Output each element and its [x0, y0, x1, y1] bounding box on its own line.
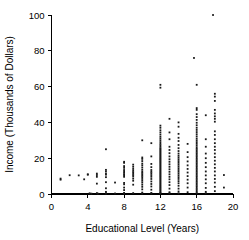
scatter-plot-figure: 048121620020406080100Educational Level (…: [0, 0, 249, 240]
scatter-point: [169, 171, 171, 173]
y-axis-title: Income (Thousands of Dollars): [4, 36, 15, 173]
scatter-point: [187, 172, 189, 174]
scatter-point: [160, 125, 162, 127]
scatter-point: [169, 176, 171, 178]
scatter-point: [105, 169, 107, 171]
scatter-point: [178, 185, 180, 187]
scatter-point: [160, 127, 162, 129]
scatter-point: [196, 119, 198, 121]
scatter-point: [132, 184, 134, 186]
scatter-point: [196, 192, 198, 194]
x-axis-title: Educational Level (Years): [85, 223, 199, 234]
scatter-point: [187, 143, 189, 145]
scatter-point: [196, 124, 198, 126]
scatter-point: [187, 156, 189, 158]
scatter-point: [187, 164, 189, 166]
y-tick-label: 0: [39, 189, 44, 200]
scatter-point: [123, 165, 125, 167]
y-tick-label: 60: [34, 81, 45, 92]
y-tick-label: 40: [34, 117, 45, 128]
x-tick-label: 12: [155, 201, 166, 212]
scatter-point: [187, 175, 189, 177]
scatter-point: [214, 174, 216, 176]
scatter-point: [196, 131, 198, 133]
scatter-point: [214, 149, 216, 151]
scatter-point: [178, 166, 180, 168]
scatter-point: [114, 193, 116, 195]
scatter-point: [187, 161, 189, 163]
x-tick-label: 16: [191, 201, 202, 212]
scatter-point: [196, 143, 198, 145]
scatter-point: [178, 176, 180, 178]
scatter-point: [178, 160, 180, 162]
scatter-point: [141, 178, 143, 180]
scatter-point: [123, 162, 125, 164]
scatter-point: [141, 163, 143, 165]
scatter-point: [89, 192, 91, 194]
scatter-point: [178, 150, 180, 152]
scatter-point: [196, 129, 198, 131]
scatter-point: [169, 178, 171, 180]
scatter-point: [150, 172, 152, 174]
scatter-point: [196, 113, 198, 115]
scatter-point: [160, 138, 162, 140]
scatter-point: [160, 139, 162, 141]
scatter-point: [214, 171, 216, 173]
x-tick-label: 8: [121, 201, 126, 212]
scatter-point: [123, 193, 125, 195]
scatter-point: [214, 109, 216, 111]
scatter-point: [205, 187, 207, 189]
scatter-point: [196, 133, 198, 135]
scatter-point: [141, 182, 143, 184]
scatter-point: [178, 174, 180, 176]
scatter-point: [160, 134, 162, 136]
scatter-point: [169, 184, 171, 186]
scatter-point: [214, 96, 216, 98]
y-tick-label: 80: [34, 45, 45, 56]
scatter-point: [150, 178, 152, 180]
scatter-point: [205, 138, 207, 140]
scatter-point: [169, 152, 171, 154]
scatter-point: [214, 146, 216, 148]
scatter-point: [150, 181, 152, 183]
y-tick-label: 20: [34, 153, 45, 164]
scatter-point: [160, 87, 162, 89]
scatter-point: [205, 146, 207, 148]
scatter-point: [196, 107, 198, 109]
scatter-point: [132, 192, 134, 194]
scatter-point: [141, 160, 143, 162]
scatter-point: [214, 160, 216, 162]
scatter-point: [214, 93, 216, 95]
scatter-point: [178, 153, 180, 155]
scatter-point: [169, 138, 171, 140]
scatter-point: [150, 174, 152, 176]
scatter-point: [105, 171, 107, 173]
scatter-point: [105, 148, 107, 150]
scatter-points-group: [60, 14, 225, 194]
scatter-point: [141, 180, 143, 182]
scatter-point: [150, 163, 152, 165]
chart-canvas: 048121620020406080100Educational Level (…: [0, 0, 249, 240]
scatter-point: [105, 181, 107, 183]
scatter-point: [178, 162, 180, 164]
scatter-point: [196, 145, 198, 147]
scatter-point: [196, 139, 198, 141]
scatter-point: [96, 173, 98, 175]
scatter-point: [178, 167, 180, 169]
scatter-point: [160, 193, 162, 195]
scatter-point: [178, 140, 180, 142]
scatter-point: [141, 158, 143, 160]
scatter-point: [169, 173, 171, 175]
scatter-point: [223, 187, 225, 189]
scatter-point: [114, 182, 116, 184]
x-tick-label: 4: [85, 201, 90, 212]
scatter-point: [196, 84, 198, 86]
scatter-point: [150, 176, 152, 178]
scatter-point: [205, 178, 207, 180]
scatter-point: [169, 156, 171, 158]
scatter-point: [193, 57, 195, 59]
scatter-point: [178, 137, 180, 139]
scatter-point: [214, 130, 216, 132]
scatter-point: [169, 149, 171, 151]
scatter-point: [196, 138, 198, 140]
